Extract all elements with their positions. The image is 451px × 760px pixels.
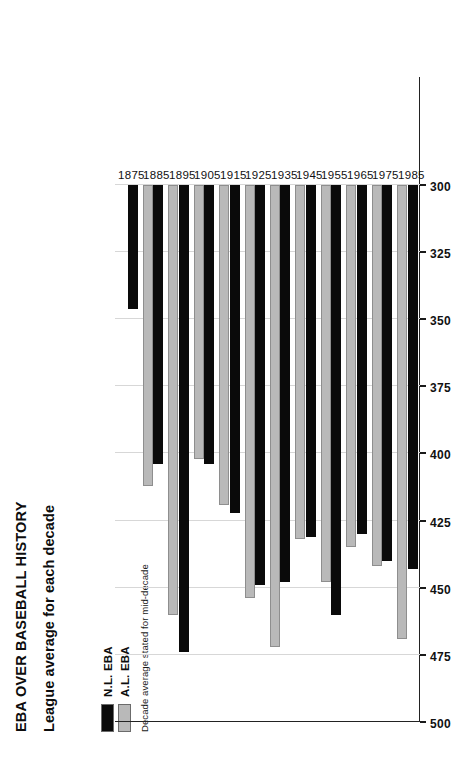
value-tick-label: 375 — [430, 381, 451, 395]
bar-al-1965 — [346, 185, 356, 547]
page-subtitle: League average for each decade — [42, 302, 58, 732]
category-label: 1945 — [296, 169, 323, 181]
bar-nl-1895 — [179, 185, 189, 652]
axis-tick — [420, 587, 426, 589]
category-label: 1985 — [398, 169, 425, 181]
category-label: 1895 — [169, 169, 196, 181]
category-label: 1905 — [194, 169, 221, 181]
bar-nl-1945 — [306, 185, 316, 537]
bar-al-1945 — [295, 185, 305, 539]
bar-al-1905 — [194, 185, 204, 459]
axis-tick — [420, 318, 426, 320]
bar-nl-1925 — [255, 185, 265, 585]
gridline — [115, 654, 420, 655]
bar-al-1915 — [219, 185, 229, 505]
category-label: 1915 — [220, 169, 247, 181]
bar-al-1925 — [245, 185, 255, 598]
bar-al-1985 — [397, 185, 407, 639]
bar-nl-1905 — [204, 185, 214, 464]
page-title: EBA OVER BASEBALL HISTORY — [14, 302, 30, 732]
axis-tick — [420, 654, 426, 656]
axis-tick — [420, 721, 426, 723]
category-label: 1935 — [271, 169, 298, 181]
value-tick-label: 325 — [430, 247, 451, 261]
bar-al-1935 — [270, 185, 280, 647]
axis-tick — [420, 520, 426, 522]
value-tick-label: 300 — [430, 180, 451, 194]
value-tick-label: 400 — [430, 449, 451, 463]
bar-nl-1935 — [280, 185, 290, 582]
axis-tick — [420, 251, 426, 253]
bar-nl-1885 — [153, 185, 163, 464]
legend-swatch-nl — [101, 704, 114, 732]
bar-nl-1985 — [408, 185, 418, 569]
bar-al-1975 — [372, 185, 382, 566]
bar-al-1885 — [143, 185, 153, 486]
title-block: EBA OVER BASEBALL HISTORY League average… — [14, 302, 58, 732]
category-label: 1955 — [321, 169, 348, 181]
gridline — [115, 587, 420, 588]
category-label: 1975 — [372, 169, 399, 181]
category-label: 1885 — [143, 169, 170, 181]
bar-al-1955 — [321, 185, 331, 582]
legend-label-nl: N.L. EBA — [102, 646, 114, 697]
axis-tick — [420, 453, 426, 455]
bar-nl-1915 — [230, 185, 240, 513]
category-label: 1875 — [118, 169, 145, 181]
axis-tick — [420, 385, 426, 387]
legend-item-nl: N.L. EBA — [101, 452, 114, 732]
value-tick-label: 450 — [430, 583, 451, 597]
value-tick-label: 350 — [430, 314, 451, 328]
bar-nl-1975 — [382, 185, 392, 561]
bar-al-1895 — [168, 185, 178, 615]
axis-tick — [420, 184, 426, 186]
bar-nl-1955 — [331, 185, 341, 615]
value-tick-label: 500 — [430, 717, 451, 731]
value-tick-label: 425 — [430, 516, 451, 530]
bar-nl-1875 — [128, 185, 138, 309]
bar-nl-1965 — [357, 185, 367, 534]
category-label: 1925 — [245, 169, 272, 181]
value-tick-label: 475 — [430, 650, 451, 664]
category-label: 1965 — [347, 169, 374, 181]
